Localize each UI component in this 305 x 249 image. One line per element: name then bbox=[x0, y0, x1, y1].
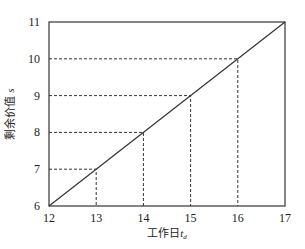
x-tick-label: 12 bbox=[43, 211, 55, 225]
x-tick-label: 13 bbox=[90, 211, 102, 225]
y-tick-label: 11 bbox=[28, 15, 40, 29]
y-tick-label: 9 bbox=[34, 89, 40, 103]
chart: 121314151617 67891011 工作日td 剩余价值 s bbox=[0, 0, 305, 249]
x-tick-label: 14 bbox=[137, 211, 149, 225]
y-tick-label: 8 bbox=[34, 125, 40, 139]
y-tick-label: 10 bbox=[28, 52, 40, 66]
x-tick-label: 17 bbox=[279, 211, 291, 225]
y-tick-label: 7 bbox=[34, 162, 40, 176]
y-axis-label: 剩余价值 s bbox=[3, 88, 17, 139]
x-axis-label: 工作日td bbox=[147, 227, 187, 241]
x-tick-labels: 121314151617 bbox=[43, 211, 291, 225]
y-tick-labels: 67891011 bbox=[28, 15, 40, 213]
x-tick-label: 15 bbox=[185, 211, 197, 225]
series-line bbox=[49, 22, 285, 206]
y-tick-label: 6 bbox=[34, 199, 40, 213]
x-tick-label: 16 bbox=[232, 211, 244, 225]
plot-area bbox=[49, 22, 285, 206]
